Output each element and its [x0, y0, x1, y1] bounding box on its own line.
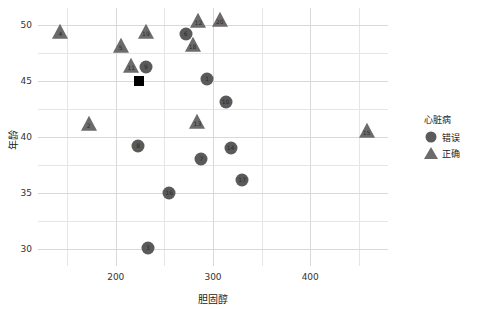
- x-axis-title: 胆固醇: [198, 291, 228, 306]
- data-point-label: 16: [165, 190, 173, 196]
- data-point-label: 3: [146, 245, 150, 251]
- data-point-16[interactable]: 16: [161, 185, 177, 201]
- data-point-14[interactable]: 14: [223, 140, 239, 156]
- data-point-label: 4: [58, 31, 62, 37]
- legend-item-triangle[interactable]: 正确: [424, 146, 482, 160]
- data-point-10[interactable]: 10: [218, 94, 234, 110]
- data-point-2[interactable]: 2: [81, 116, 97, 132]
- legend-label-triangle: 正确: [442, 147, 460, 160]
- legend-label-circle: 错误: [442, 131, 460, 144]
- data-point-9[interactable]: 9: [138, 59, 154, 75]
- gridline-vertical: [213, 8, 214, 266]
- data-point-15[interactable]: 15: [359, 123, 375, 139]
- x-tick-label: 200: [107, 272, 124, 282]
- data-point-label: 18: [189, 44, 197, 50]
- y-tick-label: 35: [8, 188, 32, 198]
- plot-area: 1367891014161724511121315181920: [38, 8, 388, 266]
- data-point-label: 1: [205, 76, 209, 82]
- legend-title: 心脏病: [424, 113, 482, 126]
- data-point-label: 13: [194, 121, 202, 127]
- gridline-vertical: [310, 8, 311, 266]
- data-point-label: 14: [227, 145, 235, 151]
- data-point-label: 5: [119, 45, 123, 51]
- legend-circle-icon: [424, 130, 438, 144]
- data-point-17[interactable]: 17: [234, 172, 250, 188]
- data-point-7[interactable]: 7: [193, 151, 209, 167]
- legend: 心脏病 错误 正确: [424, 113, 482, 162]
- x-tick-label: 400: [302, 272, 319, 282]
- data-point-1[interactable]: 1: [199, 71, 215, 87]
- scatter-chart: 1367891014161724511121315181920 30354045…: [0, 0, 483, 309]
- data-point-label: 8: [136, 143, 140, 149]
- data-point-label: 17: [238, 177, 246, 183]
- data-point-8[interactable]: 8: [130, 138, 146, 154]
- legend-item-circle[interactable]: 错误: [424, 130, 482, 144]
- data-point-label: 20: [216, 19, 224, 25]
- y-tick-label: 30: [8, 244, 32, 254]
- data-point-11[interactable]: 11: [123, 58, 139, 74]
- data-point-label: 2: [87, 123, 91, 129]
- y-axis-title: 年龄: [5, 130, 20, 150]
- data-point-label: 11: [128, 65, 136, 71]
- data-point-13[interactable]: 13: [189, 114, 205, 130]
- data-point-label: 10: [222, 99, 230, 105]
- data-point-18[interactable]: 18: [185, 37, 201, 53]
- data-point-20[interactable]: 20: [212, 12, 228, 28]
- y-tick-label: 50: [8, 20, 32, 30]
- y-tick-label: 45: [8, 76, 32, 86]
- data-point-4[interactable]: 4: [52, 24, 68, 40]
- data-point-5[interactable]: 5: [113, 38, 129, 54]
- data-point-label: 15: [363, 130, 371, 136]
- data-point-12[interactable]: 12: [190, 13, 206, 29]
- legend-triangle-icon: [424, 146, 438, 160]
- data-point-19[interactable]: 19: [138, 24, 154, 40]
- data-point-3[interactable]: 3: [140, 240, 156, 256]
- x-tick-label: 300: [204, 272, 221, 282]
- data-point-label: 19: [142, 31, 150, 37]
- centroid-marker[interactable]: [134, 76, 144, 86]
- data-point-label: 9: [144, 64, 148, 70]
- data-point-label: 12: [195, 20, 203, 26]
- data-point-label: 7: [199, 156, 203, 162]
